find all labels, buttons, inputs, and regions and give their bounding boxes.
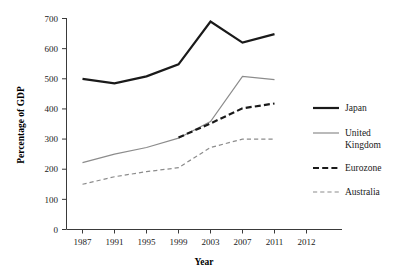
x-tick-label: 1987 [74, 237, 93, 247]
x-tick-label: 1999 [170, 237, 189, 247]
series-line-japan [83, 22, 275, 84]
y-tick-label: 0 [54, 225, 59, 235]
y-tick-label: 300 [45, 134, 59, 144]
legend-label-united-kingdom-line2: Kingdom [345, 140, 382, 150]
y-tick-label: 400 [45, 104, 59, 114]
y-tick-label: 200 [45, 164, 59, 174]
x-tick-label: 2012 [298, 237, 316, 247]
y-tick-label: 700 [45, 14, 59, 24]
x-axis-title: Year [195, 257, 215, 267]
legend-label-japan: Japan [345, 103, 367, 113]
x-tick-label: 2003 [202, 237, 221, 247]
y-axis-title: Percentage of GDP [16, 86, 26, 164]
series-lines [83, 22, 275, 185]
x-axis-ticks: 19871991199519992003200720112012 [74, 230, 316, 248]
x-tick-label: 2011 [266, 237, 284, 247]
y-tick-label: 500 [45, 74, 59, 84]
series-line-united-kingdom [83, 76, 275, 162]
x-tick-label: 1995 [138, 237, 157, 247]
line-chart-canvas: Percentage of GDP 0100200300400500600700… [0, 0, 405, 279]
x-tick-label: 1991 [106, 237, 124, 247]
y-tick-label: 100 [45, 195, 59, 205]
chart-legend: JapanUnitedKingdomEurozoneAustralia [313, 103, 382, 197]
legend-label-eurozone: Eurozone [345, 163, 381, 173]
x-tick-label: 2007 [234, 237, 253, 247]
y-axis-ticks: 0100200300400500600700 [45, 14, 67, 235]
chart-figure: Percentage of GDP 0100200300400500600700… [0, 0, 405, 279]
series-line-eurozone [179, 104, 275, 138]
legend-label-australia: Australia [345, 187, 381, 197]
legend-label-united-kingdom: United [345, 128, 371, 138]
series-line-australia [83, 139, 275, 184]
y-tick-label: 600 [45, 44, 59, 54]
